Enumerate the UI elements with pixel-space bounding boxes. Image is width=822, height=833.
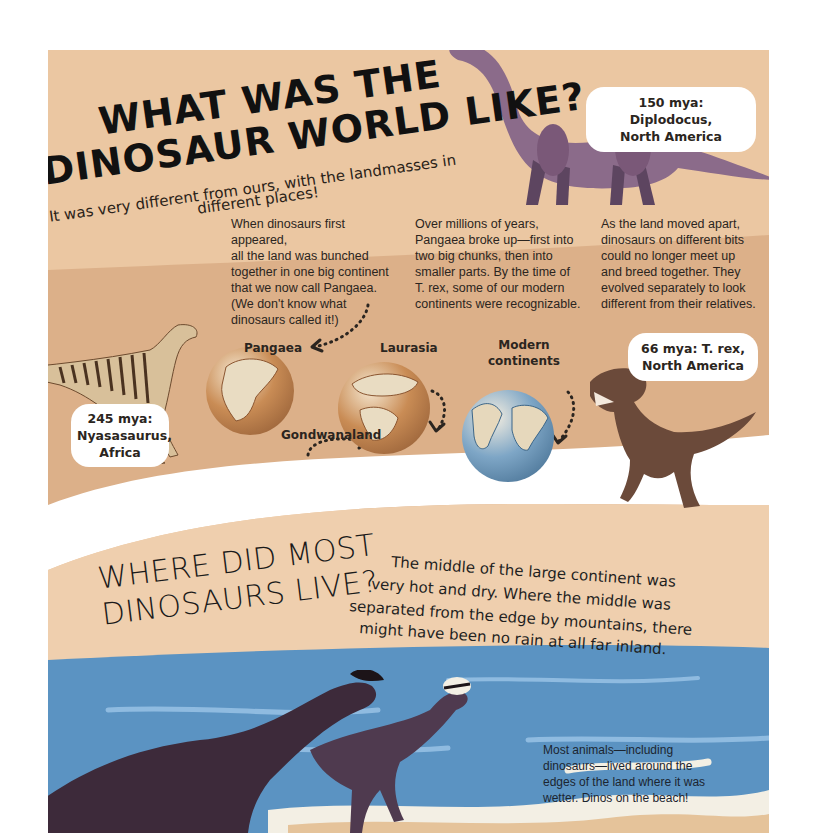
trex-illustration	[584, 362, 764, 512]
globe-modern	[462, 390, 554, 482]
callout-trex-line2: North America	[640, 357, 746, 374]
label-pangaea: Pangaea	[244, 340, 302, 356]
pangaea-landmass	[206, 347, 294, 435]
label-laurasia: Laurasia	[380, 340, 438, 356]
globe-pangaea	[206, 347, 294, 435]
beach-text-line: edges of the land where it was	[543, 774, 713, 790]
callout-nyasasaurus-line2: Nyasasaurus,	[77, 427, 163, 444]
beach-dinosaurs-illustration	[48, 670, 560, 833]
beach-text-line: Most animals—including	[543, 742, 713, 758]
label-gondwanaland: Gondwanaland	[281, 427, 381, 443]
callout-nyasasaurus-line1: 245 mya:	[77, 410, 163, 427]
modern-continents	[462, 390, 554, 482]
callout-nyasasaurus-line3: Africa	[77, 444, 163, 461]
label-modern-continents: Modern continents	[488, 337, 560, 369]
beach-text-line: wetter. Dinos on the beach!	[543, 790, 713, 806]
callout-nyasasaurus: 245 mya: Nyasasaurus, Africa	[71, 404, 169, 467]
callout-trex-line1: 66 mya: T. rex,	[640, 340, 746, 357]
beach-text: Most animals—including dinosaurs—lived a…	[543, 742, 713, 806]
label-modern-line1: Modern	[488, 337, 560, 353]
callout-trex: 66 mya: T. rex, North America	[628, 333, 758, 381]
beach-text-line: dinosaurs—lived around the	[543, 758, 713, 774]
page-panel: WHAT WAS THE DINOSAUR WORLD LIKE? It was…	[48, 50, 769, 833]
label-modern-line2: continents	[488, 353, 560, 369]
